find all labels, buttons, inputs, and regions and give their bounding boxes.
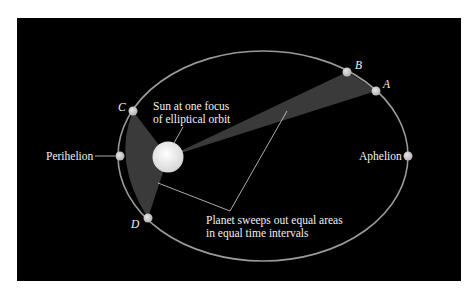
equal-areas-caption: Planet sweeps out equal areas in equal t… [206, 214, 343, 240]
point-d-label: D [131, 218, 139, 231]
sun-icon [153, 142, 184, 173]
point-b-label: B [355, 59, 362, 72]
sun-leader-line [174, 127, 183, 143]
sun-caption-line1: Sun at one focus [153, 100, 230, 113]
planet-d-icon [144, 214, 153, 223]
planet-b-icon [343, 68, 352, 77]
sun-caption-line2: of elliptical orbit [153, 113, 230, 126]
equal-areas-caption-line2: in equal time intervals [206, 227, 343, 240]
aphelion-label: Aphelion [359, 150, 402, 163]
planet-a-icon [372, 87, 381, 96]
sun-caption: Sun at one focus of elliptical orbit [153, 100, 230, 126]
planet-perihelion-icon [116, 152, 125, 161]
planet-aphelion-icon [404, 152, 413, 161]
equal-areas-caption-line1: Planet sweeps out equal areas [206, 214, 343, 227]
orbit-diagram [0, 0, 472, 295]
point-c-label: C [118, 101, 126, 114]
point-a-label: A [383, 78, 390, 91]
perihelion-label: Perihelion [46, 150, 93, 163]
planet-c-icon [129, 107, 138, 116]
